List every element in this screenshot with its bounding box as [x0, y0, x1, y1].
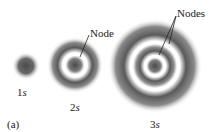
orbital-3s [108, 19, 202, 113]
orbital-diagram [0, 0, 211, 132]
panel-label: (a) [7, 118, 19, 130]
orbital-1s [12, 52, 40, 80]
node-label: Node [90, 27, 114, 39]
orbital-letter: s [23, 86, 27, 98]
nodes-label: Nodes [177, 7, 205, 19]
orbital-letter: s [156, 118, 160, 130]
orbital-label-3s: 3s [150, 118, 160, 130]
orbital-letter: s [76, 101, 80, 113]
orbital-label-1s: 1s [17, 86, 27, 98]
orbital-2s [47, 37, 103, 93]
orbital-label-2s: 2s [70, 101, 80, 113]
